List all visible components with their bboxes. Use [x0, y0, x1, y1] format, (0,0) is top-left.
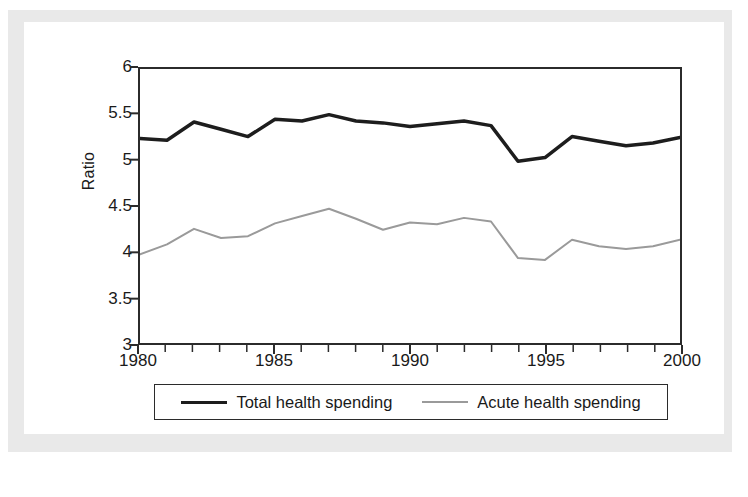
y-axis-tick-labels: 33.544.555.56 [74, 67, 132, 345]
line-chart: Ratio 33.544.555.56 19801985199019952000… [24, 22, 724, 434]
y-tick-label: 6 [80, 58, 132, 75]
x-tick-label: 1990 [370, 352, 450, 369]
y-tick-label: 5.5 [80, 104, 132, 121]
legend-label-acute: Acute health spending [477, 393, 640, 412]
x-tick-label: 1995 [506, 352, 586, 369]
series-line-total [140, 115, 680, 162]
chart-legend: Total health spending Acute health spend… [154, 384, 668, 420]
y-tick-label: 3.5 [80, 290, 132, 307]
legend-line-swatch-total [181, 401, 227, 404]
y-tick-label: 5 [80, 151, 132, 168]
series-layer [140, 115, 680, 260]
legend-item-acute[interactable]: Acute health spending [422, 393, 640, 412]
plot-svg [140, 69, 680, 343]
plot-area [138, 67, 682, 345]
x-tick-label: 1985 [234, 352, 314, 369]
series-line-acute [140, 209, 680, 260]
y-tick-label: 4.5 [80, 197, 132, 214]
scanned-page: Ratio 33.544.555.56 19801985199019952000… [0, 0, 748, 497]
legend-line-swatch-acute [422, 401, 468, 403]
legend-label-total: Total health spending [236, 393, 392, 412]
x-axis-tick-labels: 19801985199019952000 [138, 352, 682, 378]
x-tick-label: 2000 [642, 352, 722, 369]
y-tick-label: 4 [80, 243, 132, 260]
x-tick-label: 1980 [98, 352, 178, 369]
figure-card: Ratio 33.544.555.56 19801985199019952000… [24, 22, 724, 434]
legend-item-total[interactable]: Total health spending [181, 393, 392, 412]
